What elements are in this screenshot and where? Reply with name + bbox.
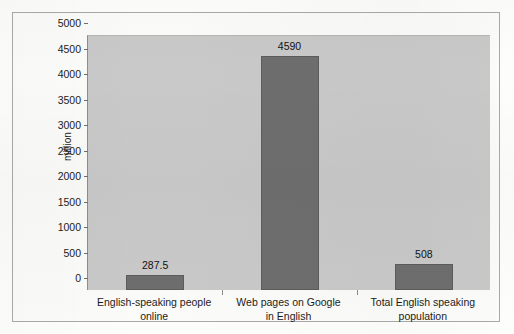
x-axis-category-label: Web pages on Googlein English xyxy=(221,296,355,330)
category-label-line: online xyxy=(87,310,221,324)
y-axis-tick-label: 3500 xyxy=(58,94,88,106)
x-axis-category-label: Total English speakingpopulation xyxy=(356,296,490,330)
x-axis-category-labels: English-speaking peopleonlineWeb pages o… xyxy=(87,296,490,330)
y-axis-tick-label: 3000 xyxy=(58,119,88,131)
plot-area: 5000450040003500300025002000150010005000… xyxy=(87,35,490,290)
x-axis-tick xyxy=(222,290,223,295)
bar: 4590 xyxy=(261,56,319,290)
bar: 508 xyxy=(395,264,453,290)
y-axis-tick-label: 2500 xyxy=(58,145,88,157)
x-axis-tick xyxy=(357,290,358,295)
bar: 287.5 xyxy=(126,275,184,290)
category-label-line: English-speaking people xyxy=(87,296,221,310)
x-axis-category-label: English-speaking peopleonline xyxy=(87,296,221,330)
y-axis-tick-label: 2000 xyxy=(58,170,88,182)
y-axis-tick-label: 0 xyxy=(75,272,88,284)
bar-value-label: 508 xyxy=(415,248,433,260)
category-label-line: in English xyxy=(221,310,355,324)
category-label-line: Total English speaking xyxy=(356,296,490,310)
y-axis-tick-label: 1500 xyxy=(58,196,88,208)
y-axis-tick-label: 1000 xyxy=(58,221,88,233)
bar-value-label: 287.5 xyxy=(142,259,168,271)
y-axis-tick-label: 4000 xyxy=(58,68,88,80)
category-label-line: population xyxy=(356,310,490,324)
category-label-line: Web pages on Google xyxy=(221,296,355,310)
y-axis-tick-label: 5000 xyxy=(58,17,88,29)
y-axis-tick-label: 500 xyxy=(63,247,88,259)
y-axis-tick-label: 4500 xyxy=(58,43,88,55)
bar-value-label: 4590 xyxy=(278,40,301,52)
chart-frame: million 50004500400035003000250020001500… xyxy=(12,12,500,322)
